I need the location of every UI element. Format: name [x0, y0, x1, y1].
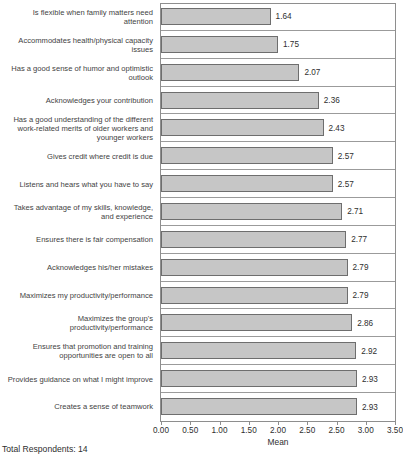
category-label: Takes advantage of my skills, knowledge,…	[0, 198, 160, 226]
category-label-line: work-related merits of older workers and	[0, 124, 153, 133]
chart-row: Ensures there is fair compensation2.77	[0, 226, 396, 254]
category-label-line: and experience	[0, 212, 153, 221]
bar-band: 2.07	[160, 59, 396, 87]
category-label-line: Ensures that promotion and training	[0, 342, 153, 351]
x-axis-tick-label: 0.00	[153, 426, 169, 435]
bar	[161, 64, 299, 81]
bar-band: 1.75	[160, 31, 396, 59]
bar-value-label: 2.79	[353, 263, 369, 272]
category-label-line: Acknowledges his/her mistakes	[0, 263, 153, 272]
category-label-line: Is flexible when family matters need	[0, 8, 153, 17]
bar	[161, 92, 319, 109]
bar-chart-figure: Is flexible when family matters needatte…	[0, 0, 403, 458]
x-axis-tick-label: 0.50	[182, 426, 198, 435]
bar-value-label: 1.64	[276, 12, 292, 21]
chart-row: Has a good understanding of the differen…	[0, 114, 396, 142]
x-axis-tick-label: 1.50	[241, 426, 257, 435]
bar	[161, 175, 333, 192]
bar-value-label: 2.79	[353, 291, 369, 300]
chart-row: Maximizes the group'sproductivity/perfor…	[0, 309, 396, 337]
chart-row: Listens and hears what you have to say2.…	[0, 170, 396, 198]
chart-row: Acknowledges his/her mistakes2.79	[0, 254, 396, 282]
bar	[161, 342, 356, 359]
bar	[161, 259, 348, 276]
category-label-line: Has a good understanding of the differen…	[0, 115, 153, 124]
chart-row: Acknowledges your contribution2.36	[0, 87, 396, 115]
bar-band: 2.79	[160, 254, 396, 282]
category-label: Ensures that promotion and trainingoppor…	[0, 337, 160, 365]
category-label: Ensures there is fair compensation	[0, 226, 160, 254]
category-label: Provides guidance on what I might improv…	[0, 365, 160, 393]
bar	[161, 36, 278, 53]
bar-band: 2.36	[160, 87, 396, 115]
chart-row: Accommodates health/physical capacityiss…	[0, 31, 396, 59]
x-axis-tick-mark	[307, 421, 308, 425]
bar-band: 2.57	[160, 142, 396, 170]
x-axis-tick-mark	[395, 421, 396, 425]
category-label-line: Creates a sense of teamwork	[0, 402, 153, 411]
bar-band: 2.93	[160, 393, 396, 421]
bar-band: 2.77	[160, 226, 396, 254]
category-label: Maximizes my productivity/performance	[0, 282, 160, 310]
bar	[161, 231, 346, 248]
chart-row: Has a good sense of humor and optimistic…	[0, 59, 396, 87]
bar-value-label: 2.93	[362, 374, 378, 383]
category-label: Is flexible when family matters needatte…	[0, 3, 160, 31]
bar-band: 2.71	[160, 198, 396, 226]
bar-band: 2.43	[160, 114, 396, 142]
bar	[161, 314, 352, 331]
category-label: Creates a sense of teamwork	[0, 393, 160, 421]
category-label-line: Maximizes the group's	[0, 314, 153, 323]
x-axis-tick-mark	[161, 421, 162, 425]
bar-value-label: 2.07	[304, 68, 320, 77]
bar-value-label: 2.71	[347, 207, 363, 216]
category-label-line: Ensures there is fair compensation	[0, 235, 153, 244]
category-label-line: Provides guidance on what I might improv…	[0, 375, 153, 384]
category-label: Acknowledges your contribution	[0, 87, 160, 115]
bar-value-label: 2.93	[362, 402, 378, 411]
chart-row: Creates a sense of teamwork2.93	[0, 393, 396, 421]
category-label-line: Maximizes my productivity/performance	[0, 291, 153, 300]
category-label-line: Gives credit where credit is due	[0, 152, 153, 161]
chart-row: Takes advantage of my skills, knowledge,…	[0, 198, 396, 226]
chart-row: Ensures that promotion and trainingoppor…	[0, 337, 396, 365]
category-label-line: younger workers	[0, 133, 153, 142]
category-label: Maximizes the group'sproductivity/perfor…	[0, 309, 160, 337]
category-label-line: Acknowledges your contribution	[0, 96, 153, 105]
category-label-line: outlook	[0, 73, 153, 82]
bar-value-label: 2.36	[324, 96, 340, 105]
category-label-line: opportunities are open to all	[0, 351, 153, 360]
bar	[161, 287, 348, 304]
category-label: Listens and hears what you have to say	[0, 170, 160, 198]
category-label: Gives credit where credit is due	[0, 142, 160, 170]
x-axis-tick-mark	[190, 421, 191, 425]
category-label-line: Accommodates health/physical capacity	[0, 36, 153, 45]
x-axis-tick-mark	[278, 421, 279, 425]
bar-band: 2.57	[160, 170, 396, 198]
bar-band: 2.92	[160, 337, 396, 365]
category-label-line: issues	[0, 45, 153, 54]
category-label: Has a good sense of humor and optimistic…	[0, 59, 160, 87]
x-axis-tick-label: 3.50	[387, 426, 403, 435]
bar-value-label: 2.92	[361, 346, 377, 355]
bar-band: 2.79	[160, 282, 396, 310]
bar	[161, 119, 324, 136]
bar-value-label: 2.86	[357, 318, 373, 327]
bar	[161, 147, 333, 164]
bar-value-label: 2.43	[329, 123, 345, 132]
x-axis-tick-mark	[337, 421, 338, 425]
x-axis-title: Mean	[161, 437, 395, 447]
category-label-line: Has a good sense of humor and optimistic	[0, 64, 153, 73]
x-axis-tick-label: 2.50	[299, 426, 315, 435]
category-label-line: productivity/performance	[0, 323, 153, 332]
category-label: Acknowledges his/her mistakes	[0, 254, 160, 282]
x-axis-tick-label: 1.00	[212, 426, 228, 435]
bar-band: 2.93	[160, 365, 396, 393]
bar-value-label: 2.77	[351, 235, 367, 244]
category-label: Accommodates health/physical capacityiss…	[0, 31, 160, 59]
x-axis-tick-label: 3.00	[358, 426, 374, 435]
category-label-line: Takes advantage of my skills, knowledge,	[0, 203, 153, 212]
bar-value-label: 2.57	[338, 179, 354, 188]
bar-value-label: 2.57	[338, 151, 354, 160]
category-label-line: attention	[0, 17, 153, 26]
